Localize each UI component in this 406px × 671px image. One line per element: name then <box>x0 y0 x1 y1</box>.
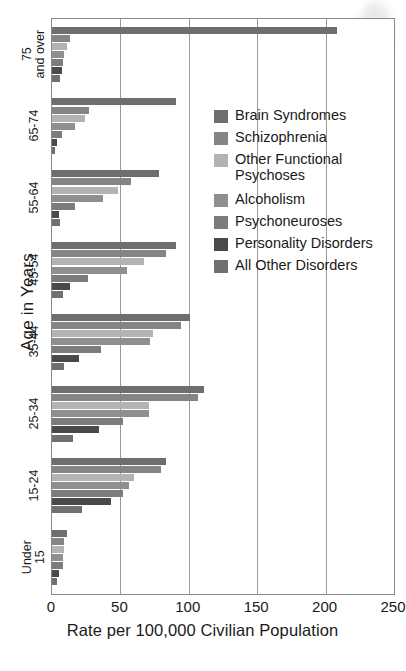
bar[interactable] <box>52 291 63 298</box>
bar[interactable] <box>52 466 161 473</box>
x-tick-label: 0 <box>47 598 55 615</box>
bar[interactable] <box>52 211 59 218</box>
x-axis-title: Rate per 100,000 Civilian Population <box>0 621 405 640</box>
y-tick-label: 35-44 <box>18 306 51 378</box>
bar[interactable] <box>52 346 101 353</box>
bar[interactable] <box>52 458 166 465</box>
bar[interactable] <box>52 538 64 545</box>
bar[interactable] <box>52 330 153 337</box>
bar[interactable] <box>52 546 64 553</box>
legend-item[interactable]: Alcoholism <box>214 192 399 211</box>
legend-item[interactable]: Psychoneuroses <box>214 214 399 233</box>
bar-group <box>52 378 394 450</box>
bar[interactable] <box>52 490 123 497</box>
bar[interactable] <box>52 355 79 362</box>
bar[interactable] <box>52 98 176 105</box>
y-tick-label: 45-54 <box>18 234 51 306</box>
bar-group <box>52 450 394 522</box>
bar[interactable] <box>52 147 55 154</box>
bar[interactable] <box>52 426 99 433</box>
legend-swatch-icon <box>214 194 228 207</box>
bar[interactable] <box>52 554 63 561</box>
bar-group <box>52 19 394 91</box>
bar[interactable] <box>52 59 63 66</box>
bar[interactable] <box>52 275 88 282</box>
legend-swatch-icon <box>214 154 228 167</box>
y-tick-label-text: 35-44 <box>28 325 41 357</box>
bar[interactable] <box>52 35 70 42</box>
bar[interactable] <box>52 506 82 513</box>
bar[interactable] <box>52 123 75 130</box>
legend-item[interactable]: All Other Disorders <box>214 258 399 277</box>
y-tick-label: 25-34 <box>18 377 51 449</box>
bar[interactable] <box>52 570 59 577</box>
y-tick-label: 15-24 <box>18 449 51 521</box>
y-tick-label-text: 65-74 <box>28 110 41 142</box>
bar[interactable] <box>52 474 134 481</box>
legend-item-label: Personality Disorders <box>235 236 373 252</box>
y-tick-label: 75and over <box>18 18 51 90</box>
bar[interactable] <box>52 530 67 537</box>
bar[interactable] <box>52 394 198 401</box>
bar[interactable] <box>52 242 176 249</box>
legend-item[interactable]: Brain Syndromes <box>214 108 399 127</box>
bar[interactable] <box>52 578 57 585</box>
bar[interactable] <box>52 178 131 185</box>
legend-item-label: Psychoneuroses <box>235 214 342 230</box>
bar[interactable] <box>52 43 67 50</box>
bar[interactable] <box>52 386 204 393</box>
bar[interactable] <box>52 250 166 257</box>
bar[interactable] <box>52 482 129 489</box>
bar[interactable] <box>52 139 57 146</box>
y-tick-label: 55-64 <box>18 162 51 234</box>
bar[interactable] <box>52 562 63 569</box>
bar[interactable] <box>52 402 149 409</box>
bar[interactable] <box>52 170 159 177</box>
bar[interactable] <box>52 283 70 290</box>
bar[interactable] <box>52 498 111 505</box>
x-tick-label: 50 <box>111 598 128 615</box>
bar[interactable] <box>52 203 75 210</box>
bar[interactable] <box>52 418 123 425</box>
bar[interactable] <box>52 187 118 194</box>
legend-item[interactable]: Schizophrenia <box>214 130 399 149</box>
legend-item[interactable]: Personality Disorders <box>214 236 399 255</box>
legend-item[interactable]: Other Functional Psychoses <box>214 152 399 183</box>
y-tick-label-text: 25-34 <box>28 397 41 429</box>
bar[interactable] <box>52 75 60 82</box>
bar[interactable] <box>52 115 85 122</box>
legend-item-label: Schizophrenia <box>235 130 327 146</box>
bar[interactable] <box>52 410 149 417</box>
y-tick-label: 65-74 <box>18 90 51 162</box>
legend-swatch-icon <box>214 238 228 251</box>
bar[interactable] <box>52 363 64 370</box>
bar[interactable] <box>52 107 89 114</box>
bar-group <box>52 522 394 594</box>
x-tick-label: 200 <box>312 598 337 615</box>
bar[interactable] <box>52 435 73 442</box>
x-axis-tick-labels: 050100150200250 <box>0 598 405 618</box>
y-tick-label-text: Under15 <box>21 540 47 574</box>
legend-item-label: All Other Disorders <box>235 258 357 274</box>
y-tick-label-text: 45-54 <box>28 254 41 286</box>
bar[interactable] <box>52 219 60 226</box>
legend-swatch-icon <box>214 110 228 123</box>
legend-item-label: Alcoholism <box>235 192 305 208</box>
bar[interactable] <box>52 322 181 329</box>
y-tick-label-text: 75and over <box>21 30 47 79</box>
bar[interactable] <box>52 67 62 74</box>
bar[interactable] <box>52 51 64 58</box>
bar[interactable] <box>52 258 144 265</box>
y-tick-label: Under15 <box>18 521 51 593</box>
legend-item-label: Other Functional Psychoses <box>235 152 342 183</box>
bar[interactable] <box>52 338 150 345</box>
bar[interactable] <box>52 27 337 34</box>
y-tick-label-text: 15-24 <box>28 469 41 501</box>
x-tick-label: 100 <box>175 598 200 615</box>
bar[interactable] <box>52 267 127 274</box>
y-tick-label-text: 55-64 <box>28 182 41 214</box>
bar[interactable] <box>52 131 62 138</box>
bar[interactable] <box>52 314 190 321</box>
bar[interactable] <box>52 195 103 202</box>
